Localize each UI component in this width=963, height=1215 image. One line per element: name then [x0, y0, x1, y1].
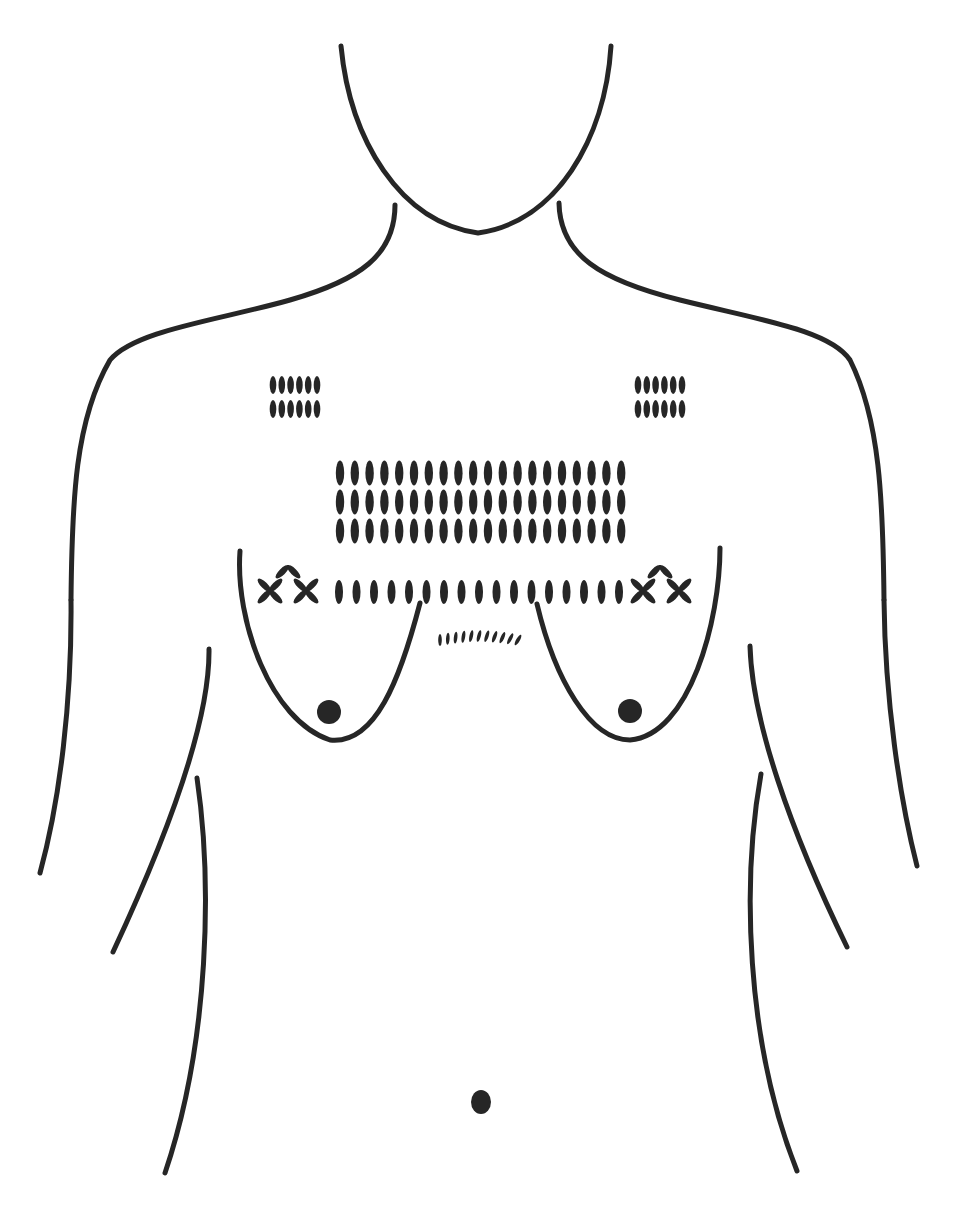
- scar-mark: [410, 519, 418, 544]
- scar-mark: [528, 580, 536, 604]
- scar-mark: [573, 519, 581, 544]
- scar-mark: [528, 490, 536, 515]
- left-cross-1: [256, 577, 285, 606]
- cross-arm: [256, 577, 273, 594]
- scar-mark: [270, 376, 277, 394]
- scar-mark: [370, 580, 378, 604]
- scar-mark: [287, 400, 294, 418]
- torso-diagram: [0, 0, 963, 1215]
- scar-mark: [468, 630, 474, 642]
- scar-mark: [598, 580, 606, 604]
- scar-mark: [499, 461, 507, 486]
- cross-arm: [665, 577, 682, 594]
- scar-mark: [498, 631, 506, 643]
- cross-arm: [292, 577, 309, 594]
- under-chest-row: [335, 580, 623, 604]
- scar-mark: [513, 519, 521, 544]
- scar-mark: [425, 490, 433, 515]
- scar-mark: [453, 631, 458, 643]
- left-arm-inner: [113, 649, 209, 952]
- scar-mark: [587, 490, 595, 515]
- scar-mark: [670, 400, 677, 418]
- sternum-arc-marks: [438, 630, 522, 646]
- scar-mark: [336, 490, 344, 515]
- scar-mark: [270, 400, 277, 418]
- scar-mark: [543, 490, 551, 515]
- scar-mark: [499, 490, 507, 515]
- scar-mark: [454, 519, 462, 544]
- scar-mark: [679, 400, 686, 418]
- scar-mark: [287, 376, 294, 394]
- cross-arm: [629, 577, 646, 594]
- scar-mark: [388, 580, 396, 604]
- scar-mark: [602, 490, 610, 515]
- left-shoulder-marks: [270, 376, 321, 418]
- scar-mark: [314, 400, 321, 418]
- scar-mark: [296, 376, 303, 394]
- central-chest-marks: [336, 461, 626, 544]
- scar-mark: [279, 376, 286, 394]
- scar-mark: [336, 519, 344, 544]
- scar-mark: [469, 461, 477, 486]
- scar-mark: [587, 461, 595, 486]
- scar-mark: [499, 519, 507, 544]
- scar-mark: [528, 519, 536, 544]
- scar-mark: [335, 580, 343, 604]
- scar-mark: [679, 376, 686, 394]
- scar-mark: [458, 580, 466, 604]
- cross-arm: [646, 563, 663, 580]
- scar-mark: [365, 461, 373, 486]
- scar-mark: [410, 461, 418, 486]
- scar-mark: [279, 400, 286, 418]
- scar-mark: [635, 400, 642, 418]
- scar-mark: [425, 461, 433, 486]
- scar-mark: [617, 490, 625, 515]
- left-cross-top: [274, 563, 303, 580]
- scar-mark: [365, 490, 373, 515]
- scar-mark: [296, 400, 303, 418]
- scar-mark: [469, 519, 477, 544]
- right-arm-inner: [750, 646, 847, 947]
- scar-mark: [573, 461, 581, 486]
- scar-mark: [644, 376, 651, 394]
- right-waist: [750, 774, 797, 1171]
- scar-mark: [484, 519, 492, 544]
- scar-mark: [558, 461, 566, 486]
- scar-mark: [670, 376, 677, 394]
- scar-mark: [351, 461, 359, 486]
- scar-mark: [543, 461, 551, 486]
- scar-mark: [380, 519, 388, 544]
- scar-mark: [476, 630, 483, 643]
- scar-mark: [617, 461, 625, 486]
- scar-mark: [439, 490, 447, 515]
- scar-mark: [351, 519, 359, 544]
- scar-mark: [469, 490, 477, 515]
- scar-mark: [423, 580, 431, 604]
- scar-mark: [395, 519, 403, 544]
- body-outline-group: [40, 46, 917, 1173]
- scar-mark: [380, 461, 388, 486]
- right-cross-1: [629, 577, 658, 606]
- right-cross-top: [646, 563, 675, 580]
- scar-mark: [395, 461, 403, 486]
- scar-mark: [493, 580, 501, 604]
- right-cross-2: [665, 577, 694, 606]
- scar-mark: [635, 376, 642, 394]
- scar-mark: [425, 519, 433, 544]
- scar-mark: [580, 580, 588, 604]
- scar-mark: [491, 631, 499, 643]
- left-cross-2: [292, 577, 321, 606]
- right-shoulder-marks: [635, 376, 686, 418]
- scar-mark: [305, 376, 312, 394]
- scar-mark: [454, 461, 462, 486]
- scar-mark: [652, 400, 659, 418]
- scar-mark: [380, 490, 388, 515]
- chin-curve: [341, 46, 611, 233]
- scar-mark: [454, 490, 462, 515]
- right-arm-outer: [884, 600, 917, 866]
- scar-mark: [615, 580, 623, 604]
- scar-mark: [336, 461, 344, 486]
- scar-mark: [558, 519, 566, 544]
- scar-mark: [440, 580, 448, 604]
- scar-mark: [573, 490, 581, 515]
